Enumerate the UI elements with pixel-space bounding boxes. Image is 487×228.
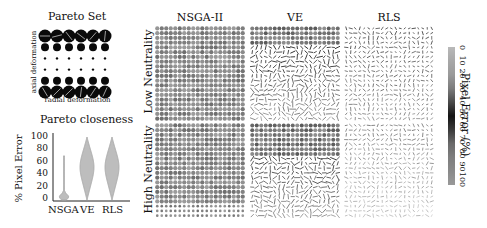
violin-ytick: 40 (24, 168, 48, 178)
column-title-rls: RLS (344, 11, 434, 24)
panel-ve-low (250, 26, 340, 121)
violin-xlabel: VE (80, 204, 95, 215)
pareto-set-title: Pareto Set (48, 10, 106, 23)
violin-ytick: 20 (24, 181, 48, 191)
panel-ve-high (250, 123, 340, 218)
column-title-nsga2: NSGA-II (155, 11, 245, 24)
colorbar-label: Pixel Error (%) (459, 70, 472, 160)
panel-nsga2-low (155, 26, 245, 121)
violin-ytick: 100 (24, 131, 48, 141)
column-title-ve: VE (250, 11, 340, 24)
pareto-closeness-title: Pareto closeness (40, 113, 133, 126)
panel-rls-high (344, 123, 434, 218)
colorbar-tick: 100 (458, 170, 467, 190)
panel-nsga2-high (155, 123, 245, 218)
row-label-high-neutrality: High Neutrality (142, 120, 155, 220)
violin-ylabel: % Pixel Error (13, 129, 24, 209)
violin-ytick: 0 (24, 193, 48, 203)
panel-rls-low (344, 26, 434, 121)
pareto-set-plot (37, 29, 112, 99)
violin-xlabel: RLS (102, 204, 123, 215)
violin-xlabel: NSGA (48, 204, 79, 215)
colorbar (448, 47, 455, 185)
violin-ytick: 60 (24, 156, 48, 166)
row-label-low-neutrality: Low Neutrality (142, 22, 155, 122)
violin-plot (50, 133, 130, 205)
violin-ytick: 80 (24, 143, 48, 153)
